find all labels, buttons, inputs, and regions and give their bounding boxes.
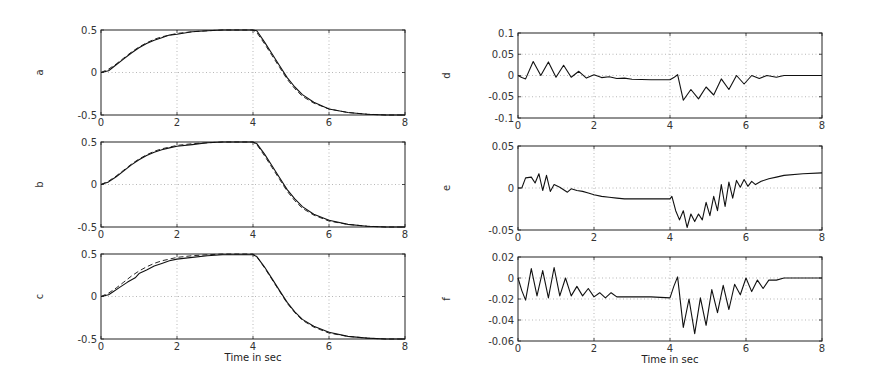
x-tick-label: 8: [819, 232, 825, 243]
y-tick-label: 0.05: [492, 49, 514, 60]
y-tick-label: -0.02: [488, 294, 514, 305]
series-line-error: [518, 62, 822, 101]
x-tick-label: 0: [515, 232, 521, 243]
x-tick-label: 2: [174, 341, 180, 352]
subplot-a: 024680.50-0.5a: [34, 25, 408, 129]
y-axis-label: a: [34, 69, 45, 75]
y-tick-label: -0.5: [77, 222, 97, 233]
x-tick-label: 4: [667, 232, 673, 243]
x-tick-label: 0: [515, 343, 521, 354]
subplot-e: 024680.050-0.05e: [441, 141, 825, 244]
x-tick-label: 2: [591, 120, 597, 131]
y-tick-label: 0.5: [81, 25, 97, 36]
y-tick-label: 0: [508, 70, 514, 81]
y-tick-label: -0.05: [488, 91, 514, 102]
x-tick-label: 6: [743, 232, 749, 243]
x-tick-label: 6: [326, 229, 332, 240]
subplot-f: 024680.020-0.02-0.04-0.06fTime in sec: [441, 252, 825, 366]
y-tick-label: 0: [91, 67, 97, 78]
x-axis-label: Time in sec: [224, 352, 282, 363]
x-axis-label: Time in sec: [641, 354, 699, 365]
y-tick-label: -0.05: [488, 225, 514, 236]
x-tick-label: 8: [819, 120, 825, 131]
y-tick-label: -0.06: [488, 336, 514, 347]
x-tick-label: 4: [250, 117, 256, 128]
x-tick-label: 2: [174, 229, 180, 240]
subplot-d: 024680.10.050-0.05-0.1d: [441, 28, 825, 132]
y-axis-label: b: [34, 181, 45, 187]
y-tick-label: 0.5: [81, 137, 97, 148]
subplot-c: 024680.50-0.5cTime in sec: [34, 249, 408, 364]
x-tick-label: 6: [326, 341, 332, 352]
y-axis-label: d: [441, 72, 452, 78]
x-tick-label: 8: [402, 117, 408, 128]
x-tick-label: 8: [402, 229, 408, 240]
y-axis-label: e: [441, 185, 452, 191]
x-tick-label: 2: [591, 232, 597, 243]
x-tick-label: 0: [515, 120, 521, 131]
x-tick-label: 4: [667, 120, 673, 131]
y-tick-label: 0: [91, 291, 97, 302]
figure-canvas: 024680.50-0.5a 024680.50-0.5b 024680.50-…: [0, 0, 881, 385]
y-tick-label: -0.5: [77, 334, 97, 345]
x-tick-label: 4: [250, 341, 256, 352]
y-tick-label: -0.1: [494, 113, 514, 124]
y-tick-label: -0.5: [77, 110, 97, 121]
y-tick-label: 0.05: [492, 141, 514, 152]
x-tick-label: 0: [98, 341, 104, 352]
y-axis-label: f: [441, 297, 452, 301]
x-tick-label: 6: [743, 343, 749, 354]
y-tick-label: 0: [91, 179, 97, 190]
y-tick-label: -0.04: [488, 315, 514, 326]
y-tick-label: 0: [508, 273, 514, 284]
y-tick-label: 0: [508, 183, 514, 194]
x-tick-label: 2: [591, 343, 597, 354]
y-axis-label: c: [34, 294, 45, 300]
x-tick-label: 8: [402, 341, 408, 352]
y-tick-label: 0.5: [81, 249, 97, 260]
x-tick-label: 6: [326, 117, 332, 128]
x-tick-label: 8: [819, 343, 825, 354]
y-tick-label: 0.1: [498, 28, 514, 39]
x-tick-label: 0: [98, 117, 104, 128]
y-tick-label: 0.02: [492, 252, 514, 263]
x-tick-label: 2: [174, 117, 180, 128]
x-tick-label: 4: [250, 229, 256, 240]
x-tick-label: 6: [743, 120, 749, 131]
x-tick-label: 4: [667, 343, 673, 354]
x-tick-label: 0: [98, 229, 104, 240]
subplot-b: 024680.50-0.5b: [34, 137, 408, 241]
